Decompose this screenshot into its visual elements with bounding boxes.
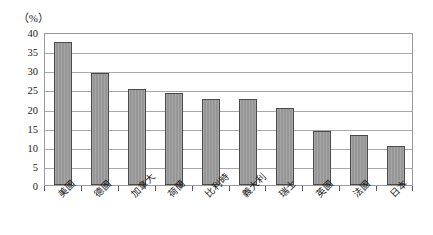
bar [276,108,294,185]
y-axis-tick-label: 15 [8,124,38,135]
bars-group [45,34,412,185]
y-axis-tick-label: 25 [8,85,38,96]
plot-area [44,33,413,186]
y-axis-tick-labels: 4035302520151050 [0,33,40,186]
y-axis-tick-label: 35 [8,47,38,58]
y-axis-tick-label: 30 [8,66,38,77]
bar [54,42,72,185]
y-axis-tick-label: 5 [8,162,38,173]
y-axis-tick-label: 10 [8,143,38,154]
y-axis-tick-label: 40 [8,28,38,39]
bar [91,73,109,185]
bar [128,89,146,185]
y-axis-unit-label: （%） [18,9,48,25]
y-axis-tick-label: 20 [8,105,38,116]
y-axis-tick-label: 0 [8,181,38,192]
bar-chart: （%） 4035302520151050 美國德國加拿大荷蘭比利時義大利瑞士英國… [0,0,433,235]
x-axis-category-labels: 美國德國加拿大荷蘭比利時義大利瑞士英國法國日本 [44,190,413,235]
bar [165,93,183,185]
bar [313,131,331,185]
